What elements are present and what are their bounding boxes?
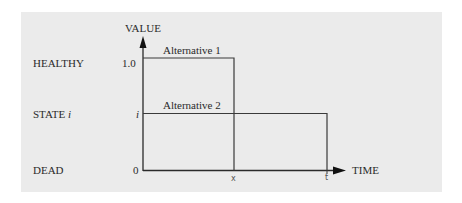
x-tick-x: x <box>231 173 236 185</box>
y-axis-arrow-icon <box>140 36 147 48</box>
y-tick-1-0: 1.0 <box>122 57 136 69</box>
alternative-1-profile <box>143 58 234 171</box>
alternative-2-label: Alternative 2 <box>163 99 221 111</box>
x-tick-t: t <box>325 172 328 184</box>
y-tick-i: i <box>136 108 139 120</box>
alternative-1-label: Alternative 1 <box>163 44 221 56</box>
y-tick-0: 0 <box>133 164 139 176</box>
state-label-healthy: HEALTHY <box>33 57 84 69</box>
x-axis-label: TIME <box>352 164 379 176</box>
state-label-dead: DEAD <box>33 164 64 176</box>
y-axis-label: VALUE <box>125 22 161 34</box>
state-label-variable: i <box>68 108 71 120</box>
alternative-2-profile <box>143 114 327 171</box>
x-axis-arrow-icon <box>333 167 346 175</box>
state-label-state-i: STATE i <box>33 108 71 120</box>
state-label-prefix: STATE <box>33 108 68 120</box>
